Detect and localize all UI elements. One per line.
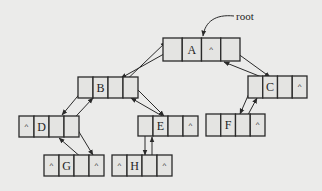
node-cell (49, 116, 64, 137)
null-pointer-icon: ^ (163, 161, 167, 170)
tree-node-A: A^ (163, 38, 240, 61)
node-cell (278, 76, 293, 98)
node-cell (163, 38, 182, 61)
node-cell (221, 38, 240, 61)
null-pointer-icon: ^ (50, 161, 54, 170)
diagram-canvas: root A^BC^^DE^F^^G^^ (0, 0, 322, 191)
tree-node-H: ^H^ (112, 155, 172, 176)
tree-node-F: F^ (206, 114, 265, 136)
null-pointer-icon: ^ (118, 161, 122, 170)
node-cell (74, 155, 89, 176)
node-cell (108, 77, 123, 98)
tree-node-G: ^G^ (44, 155, 104, 176)
node-cell (206, 114, 221, 136)
node-label: A (188, 43, 197, 57)
tree-node-E: E^ (138, 116, 198, 136)
null-pointer-icon: ^ (25, 122, 29, 131)
null-pointer-icon: ^ (209, 45, 213, 54)
node-cell (138, 116, 153, 136)
root-label: root (236, 10, 254, 22)
tree-diagram: root A^BC^^DE^F^^G^^ (0, 0, 322, 191)
null-pointer-icon: ^ (298, 82, 302, 91)
node-cell (78, 77, 93, 98)
nodes: A^BC^^DE^F^^G^^H^ (19, 38, 307, 176)
node-cell (168, 116, 183, 136)
node-cell (236, 114, 251, 136)
tree-node-B: B (78, 77, 138, 98)
node-cell (64, 116, 79, 137)
node-label: D (37, 120, 46, 134)
node-cell (248, 76, 263, 98)
root-arrow-icon (203, 16, 234, 36)
root-pointer: root (203, 10, 254, 36)
node-label: B (96, 81, 104, 95)
node-label: C (266, 80, 274, 94)
tree-node-C: C^ (248, 76, 307, 98)
null-pointer-icon: ^ (95, 161, 99, 170)
tree-node-D: ^D (19, 116, 79, 137)
node-label: F (225, 118, 232, 132)
node-cell (123, 77, 138, 98)
node-label: H (130, 159, 139, 173)
node-label: E (157, 119, 164, 133)
node-label: G (62, 159, 71, 173)
null-pointer-icon: ^ (256, 120, 260, 129)
null-pointer-icon: ^ (189, 121, 193, 130)
node-cell (142, 155, 157, 176)
